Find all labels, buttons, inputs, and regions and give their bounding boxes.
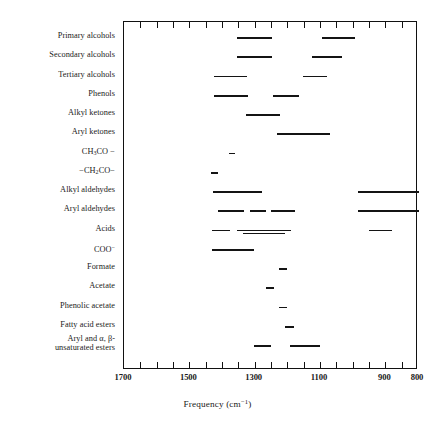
x-tick-label: 900 — [378, 372, 391, 383]
absorption-band — [290, 345, 319, 347]
absorption-band — [369, 230, 392, 232]
absorption-band — [229, 153, 235, 155]
absorption-band — [214, 95, 247, 97]
x-tick-label: 1100 — [311, 372, 327, 383]
absorption-band — [285, 326, 295, 328]
absorption-band — [358, 210, 419, 212]
x-axis-title-paren: ) — [248, 399, 251, 409]
absorption-band — [237, 37, 272, 39]
absorption-band — [271, 210, 296, 212]
x-tick-label: 1500 — [180, 372, 197, 383]
absorption-band — [213, 191, 262, 193]
absorption-band — [312, 56, 342, 58]
absorption-band — [273, 95, 300, 97]
absorption-band — [279, 307, 287, 309]
absorption-band — [322, 37, 355, 39]
x-axis-title: Frequency (cm−1) — [0, 398, 435, 409]
absorption-band — [266, 287, 274, 289]
absorption-band — [237, 56, 272, 58]
absorption-band — [214, 76, 247, 78]
absorption-frequency-chart: Primary alcoholsSecondary alcoholsTertia… — [0, 0, 435, 425]
absorption-band — [358, 191, 419, 193]
x-tick-label: 800 — [411, 372, 424, 383]
absorption-band — [212, 249, 254, 251]
absorption-band — [277, 133, 330, 135]
absorption-band — [279, 268, 287, 270]
absorption-band — [212, 230, 230, 232]
absorption-band — [250, 210, 266, 212]
absorption-band — [211, 172, 218, 174]
absorption-band — [246, 114, 280, 116]
absorption-band — [254, 345, 271, 347]
x-tick-labels: 1700150013001100900800 — [0, 372, 435, 386]
absorption-band — [243, 233, 284, 235]
absorption-band — [237, 230, 292, 232]
x-axis-title-text: Frequency (cm — [184, 399, 241, 409]
absorption-band — [218, 210, 243, 212]
x-tick-label: 1700 — [115, 372, 132, 383]
bars-layer — [0, 0, 435, 425]
x-tick-label: 1300 — [245, 372, 262, 383]
absorption-band — [303, 76, 327, 78]
